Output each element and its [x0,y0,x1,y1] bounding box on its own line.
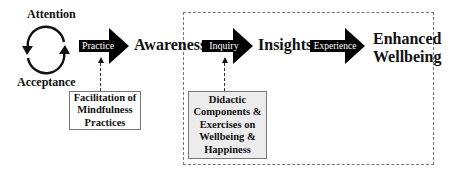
note-line: Exercises on [194,119,262,132]
note-line: Mindfulness [74,104,137,117]
didactic-connector [224,63,225,91]
enhanced-wellbeing-outcome: Enhanced Wellbeing [368,30,441,66]
circular-arrows-icon [16,24,76,76]
note-line: Wellbeing & [194,131,262,144]
note-line: Components & [194,106,262,119]
outcome-line-1: Enhanced [368,30,441,48]
connector-arrowhead-icon [98,57,104,63]
connector-arrowhead-icon [222,57,228,63]
experience-arrow: Experience [310,28,365,64]
insights-stage: Insights [258,36,312,54]
facilitation-connector [100,63,101,91]
note-line: Happiness [194,144,262,157]
facilitation-note-box: Facilitation of Mindfulness Practices [69,91,141,130]
practice-arrow-label: Practice [80,39,116,53]
note-line: Practices [74,117,137,130]
acceptance-label: Acceptance [17,75,76,90]
note-line: Facilitation of [74,92,137,105]
note-line: Didactic [194,94,262,107]
practice-arrow: Practice [79,28,129,64]
didactic-note-box: Didactic Components & Exercises on Wellb… [188,91,267,159]
experience-arrow-label: Experience [311,39,359,53]
awareness-stage: Awareness [134,36,206,54]
outcome-line-2: Wellbeing [368,48,441,66]
inquiry-arrow-label: Inquiry [204,39,244,53]
attention-label: Attention [27,7,76,22]
